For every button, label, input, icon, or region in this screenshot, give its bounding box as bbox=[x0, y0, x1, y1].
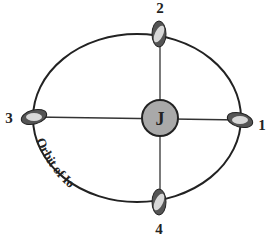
jupiter: J bbox=[142, 100, 178, 136]
position-label-2: 2 bbox=[156, 0, 164, 16]
position-label-4: 4 bbox=[155, 221, 163, 237]
jupiter-label: J bbox=[156, 109, 165, 129]
io-position-2 bbox=[152, 21, 167, 47]
io-position-4 bbox=[152, 189, 167, 215]
line-to-position-3 bbox=[35, 117, 241, 120]
io-position-3 bbox=[20, 107, 49, 127]
orbit-label: Orbit of Io bbox=[33, 135, 78, 190]
position-label-3: 3 bbox=[5, 110, 13, 126]
orbit-label-text: Orbit of Io bbox=[33, 135, 78, 190]
io-position-1 bbox=[226, 110, 255, 130]
io-orbit-diagram: J 2 3 1 4 Orbit of Io bbox=[0, 0, 268, 237]
position-label-1: 1 bbox=[258, 117, 266, 133]
